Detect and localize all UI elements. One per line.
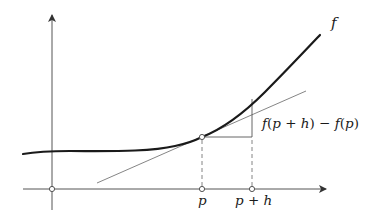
point-p-plus-h-on-axis [249,186,254,191]
point-p-on-curve [199,134,204,139]
difference-label: f(p + h) − f(p) [261,115,359,131]
function-label: f [330,14,339,32]
tick-label-p: p [198,192,207,208]
derivative-diagram: f f(p + h) − f(p) p p + h [0,0,379,222]
function-curve [23,35,320,154]
tick-label-p-plus-h: p + h [235,192,272,208]
origin-point [49,186,54,191]
point-p-on-axis [199,186,204,191]
